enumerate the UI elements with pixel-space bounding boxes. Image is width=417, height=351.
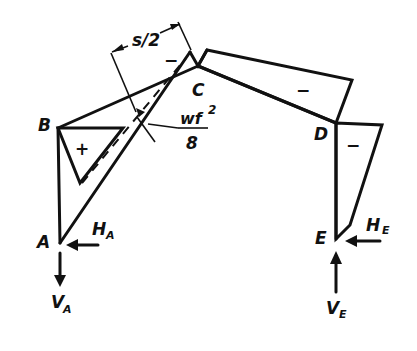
node-label-b: B — [38, 115, 51, 135]
node-label-c: C — [192, 80, 205, 100]
reaction-va: V A — [51, 253, 72, 316]
node-label-a: A — [35, 232, 50, 252]
rafter-bc — [58, 66, 198, 128]
reaction-ve: V E — [326, 251, 347, 321]
svg-text:2: 2 — [208, 103, 216, 117]
column-ab — [58, 128, 60, 243]
svg-text:H: H — [366, 215, 380, 235]
bm-triangle-column-ab — [58, 128, 123, 183]
svg-text:s/2: s/2 — [132, 30, 160, 50]
arrow-down-icon — [54, 275, 66, 287]
sign-plus-ab: + — [75, 139, 89, 159]
svg-text:A: A — [105, 229, 115, 242]
bm-rafter-cd — [198, 50, 352, 123]
arrow-up-icon — [330, 251, 342, 264]
svg-text:E: E — [382, 224, 390, 237]
arrow-left-icon — [345, 235, 357, 247]
sign-minus-c: − — [164, 50, 178, 70]
frame-diagram: s/2 wf 2 8 + − − − B C D A E H A V A H E — [0, 0, 417, 351]
arrow-left-icon — [66, 239, 78, 251]
svg-text:A: A — [62, 303, 72, 316]
svg-text:H: H — [92, 219, 106, 239]
sign-minus-de: − — [346, 135, 360, 155]
svg-text:wf: wf — [180, 109, 204, 128]
midspan-moment-annotation: wf 2 8 — [136, 103, 216, 153]
node-label-d: D — [314, 124, 328, 144]
sign-minus-cd: − — [296, 80, 310, 100]
svg-text:E: E — [339, 308, 347, 321]
svg-text:8: 8 — [186, 133, 198, 153]
node-label-e: E — [315, 228, 327, 248]
